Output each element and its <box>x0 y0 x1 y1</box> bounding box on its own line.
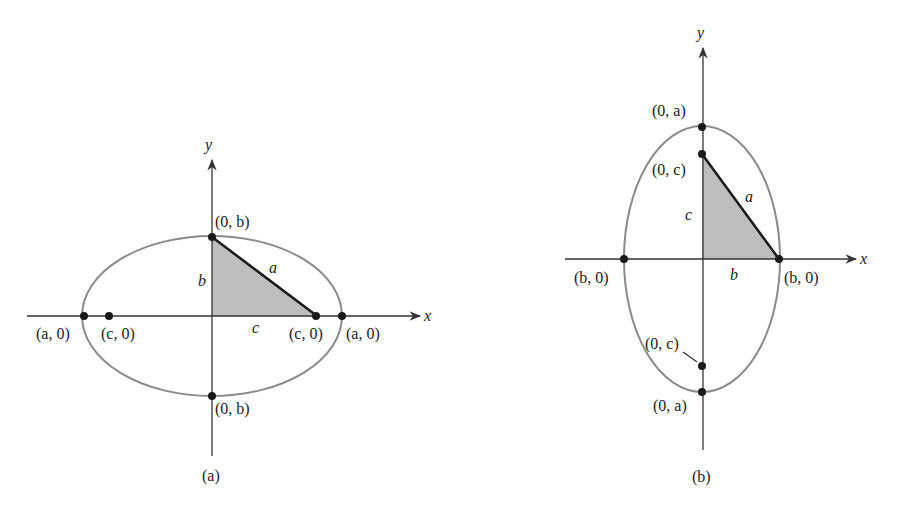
figure-a: y x (0, b) (0, b) (a, 0) (a, 0) (c, 0) (… <box>27 136 431 485</box>
label-bottom-vertex-a: (0, b) <box>215 400 250 418</box>
y-axis-label-a: y <box>203 136 213 154</box>
point-left-vertex-a <box>80 312 88 320</box>
point-bottom-vertex-a <box>208 392 216 400</box>
label-right-focus-a: (c, 0) <box>289 325 323 343</box>
label-left-focus-a: (c, 0) <box>101 325 135 343</box>
label-top-vertex-a: (0, b) <box>215 213 250 231</box>
side-label-hypotenuse-b: a <box>745 188 753 205</box>
point-bottom-focus-b <box>698 362 706 370</box>
label-top-vertex-b: (0, a) <box>652 102 686 120</box>
ellipse-diagrams: y x (0, b) (0, b) (a, 0) (a, 0) (c, 0) (… <box>0 0 899 515</box>
label-left-vertex-a: (a, 0) <box>36 325 70 343</box>
point-left-focus-a <box>105 312 113 320</box>
leader-line-bottom-focus <box>683 352 697 362</box>
caption-b: (b) <box>692 468 711 486</box>
label-right-vertex-a: (a, 0) <box>346 325 380 343</box>
point-left-vertex-b <box>620 255 628 263</box>
y-axis-label-b: y <box>695 24 705 42</box>
label-right-vertex-b: (b, 0) <box>784 269 819 287</box>
x-axis-label-b: x <box>859 250 867 267</box>
point-right-vertex-a <box>338 312 346 320</box>
side-label-vertical-a: b <box>198 272 206 289</box>
label-top-focus-b: (0, c) <box>652 161 686 179</box>
point-top-vertex-a <box>208 233 216 241</box>
figure-b: y x (0, a) (0, c) (0, c) (0, a) (b, 0) (… <box>565 24 867 486</box>
point-right-focus-a <box>312 312 320 320</box>
side-label-hypotenuse-a: a <box>269 259 277 276</box>
point-right-vertex-b <box>775 255 783 263</box>
label-bottom-focus-b: (0, c) <box>645 335 679 353</box>
side-label-horizontal-a: c <box>252 319 259 336</box>
label-left-vertex-b: (b, 0) <box>574 269 609 287</box>
label-bottom-vertex-b: (0, a) <box>653 397 687 415</box>
point-top-focus-b <box>698 150 706 158</box>
side-label-horizontal-b: b <box>730 266 738 283</box>
point-top-vertex-b <box>698 123 706 131</box>
point-bottom-vertex-b <box>698 388 706 396</box>
caption-a: (a) <box>202 467 220 485</box>
side-label-vertical-b: c <box>685 206 692 223</box>
x-axis-label-a: x <box>423 307 431 324</box>
